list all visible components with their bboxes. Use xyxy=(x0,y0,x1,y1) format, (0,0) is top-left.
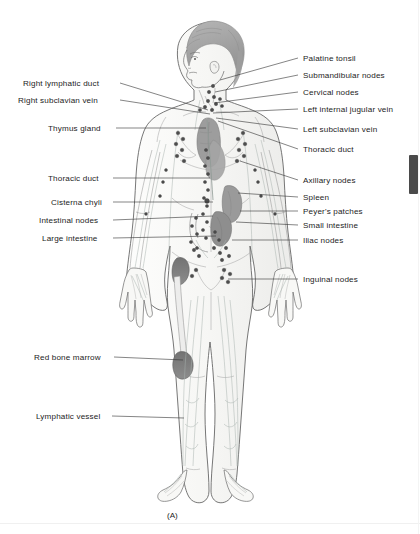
label-right-subclavian-vein: Right subclavian vein xyxy=(18,96,98,105)
leader-red-bone-marrow xyxy=(114,357,183,360)
page-border-right xyxy=(418,0,419,534)
label-inguinal-nodes: Inguinal nodes xyxy=(303,275,358,284)
label-peyers-patches: Peyer's patches xyxy=(303,207,363,216)
label-intestinal-nodes: Intestinal nodes xyxy=(39,216,98,225)
label-lymphatic-vessel: Lymphatic vessel xyxy=(36,412,100,421)
scrollbar-track[interactable] xyxy=(409,0,418,534)
label-spleen: Spleen xyxy=(303,193,329,202)
scrollbar-thumb[interactable] xyxy=(409,155,418,194)
leader-lymphatic-vessel xyxy=(112,416,184,418)
label-large-intestine: Large intestine xyxy=(42,234,98,243)
label-cervical-nodes: Cervical nodes xyxy=(303,88,359,97)
label-iliac-nodes: Iliac nodes xyxy=(303,236,343,245)
label-red-bone-marrow: Red bone marrow xyxy=(34,353,101,362)
label-thymus-gland: Thymus gland xyxy=(48,124,101,133)
figure-caption: (A) xyxy=(167,511,178,520)
label-palatine-tonsil: Palatine tonsil xyxy=(303,54,356,63)
label-cisterna-chyli: Cisterna chyli xyxy=(51,198,102,207)
body-outline xyxy=(127,22,293,503)
label-thoracic-duct-right: Thoracic duct xyxy=(303,145,354,154)
label-right-lymphatic-duct: Right lymphatic duct xyxy=(23,79,99,88)
label-axillary-nodes: Axillary nodes xyxy=(303,176,356,185)
page-border-bottom xyxy=(0,523,420,524)
cisterna-chyli-organ xyxy=(205,199,210,204)
figure-page: Right lymphatic ductRight subclavian vei… xyxy=(0,0,420,534)
label-submandibular-nodes: Submandibular nodes xyxy=(303,71,385,80)
label-thoracic-duct-left: Thoracic duct xyxy=(48,174,99,183)
leader-cervical-nodes xyxy=(214,92,298,103)
label-small-intestine: Small intestine xyxy=(303,221,358,230)
label-left-subclavian-vein: Left subclavian vein xyxy=(303,125,377,134)
bone-marrow-femur xyxy=(173,352,193,380)
label-left-internal-jugular-vein: Left internal jugular vein xyxy=(303,105,393,114)
